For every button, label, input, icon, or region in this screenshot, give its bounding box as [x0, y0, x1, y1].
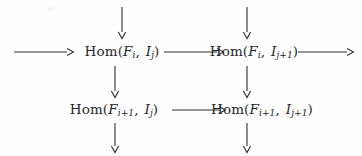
node-bottom-left-arg1-base: F	[108, 101, 117, 117]
node-top-left-arg1-base: F	[123, 43, 132, 59]
node-bottom-left-comma: ,	[134, 101, 140, 117]
node-bottom-left-functor: Hom	[70, 101, 103, 117]
node-top-left: Hom(Fi, Ij)	[85, 45, 160, 60]
node-bottom-right-comma: ,	[275, 101, 281, 117]
node-top-left-functor: Hom	[85, 43, 118, 59]
node-bottom-left: Hom(Fi+1, Ij)	[70, 103, 158, 118]
node-bottom-right-functor: Hom	[211, 101, 244, 117]
node-top-left-close-paren: )	[154, 43, 159, 59]
node-top-right: Hom(Fi, Ij+1)	[210, 45, 298, 60]
arrow-col-right-bottom-icon	[240, 123, 254, 153]
node-top-left-comma: ,	[135, 43, 141, 59]
arrow-col-left-middle-icon	[108, 66, 122, 98]
arrow-in-left-icon	[14, 45, 74, 59]
arrow-col-right-middle-icon	[240, 66, 254, 98]
node-bottom-right-arg2-sub: j+1	[291, 107, 307, 118]
node-bottom-right-close-paren: )	[308, 101, 313, 117]
arrow-col-left-bottom-icon	[108, 123, 122, 153]
node-bottom-left-close-paren: )	[153, 101, 158, 117]
node-bottom-right-arg1-sub: i+1	[259, 107, 275, 118]
arrow-col-right-top-icon	[240, 7, 254, 39]
node-bottom-right: Hom(Fi+1, Ij+1)	[211, 103, 313, 118]
arrow-out-right-icon	[298, 45, 354, 59]
node-top-right-arg1-base: F	[248, 43, 257, 59]
node-top-right-arg2-sub: j+1	[276, 49, 292, 60]
arrow-col-left-top-icon	[115, 7, 129, 39]
node-top-right-functor: Hom	[210, 43, 243, 59]
node-bottom-left-arg1-sub: i+1	[118, 107, 134, 118]
commutative-diagram: Hom(Fi, Ij) Hom(Fi, Ij+1) Hom(Fi+1, Ij) …	[0, 0, 362, 156]
node-bottom-right-arg1-base: F	[249, 101, 258, 117]
paper-speck	[48, 6, 53, 11]
node-top-right-close-paren: )	[293, 43, 298, 59]
node-top-right-comma: ,	[261, 43, 267, 59]
